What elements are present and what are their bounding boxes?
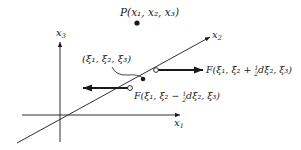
force-negative-label: F(ξ₁, ξ₂ − 12dξ₂, ξ₃) [133,90,220,103]
force-negative-origin [128,86,133,91]
x3-axis-label: x3 [56,27,66,40]
material-point-dot [141,77,146,82]
force-negative-arrow [83,86,132,91]
point-p-dot [134,20,139,25]
force-positive-arrow [154,68,203,73]
diagram-canvas: x3 x1 x2 P(x₁, x₂, x₃) (ξ₁, ξ₂, ξ₃) F(ξ₁… [0,0,301,150]
force-positive-label: F(ξ₁, ξ₂ + 12dξ₂, ξ₃) [205,64,292,77]
x2-axis-label: x2 [212,29,222,42]
point-p-label: P(x₁, x₂, x₃) [119,6,179,18]
x1-axis-label: x1 [174,117,184,130]
force-positive-origin [154,68,159,73]
material-point-label: (ξ₁, ξ₂, ξ₃) [82,53,131,64]
